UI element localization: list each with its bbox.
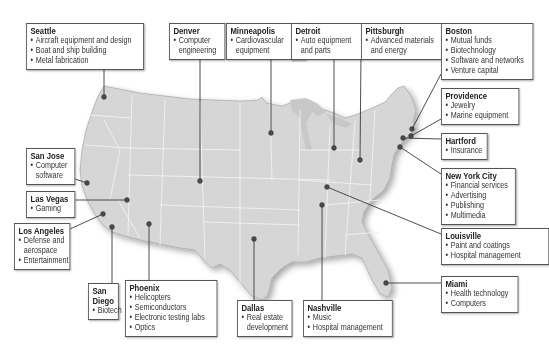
industry-item: Computers	[445, 299, 513, 309]
industry-item: aerospace	[18, 246, 65, 256]
callout-miami: Miami Health technologyComputers	[441, 276, 518, 313]
industry-item: Paint and coatings	[445, 241, 544, 251]
industry-item: Software and networks	[445, 56, 528, 66]
city-dot-hartford	[401, 136, 406, 141]
industry-item: Marine equipment	[445, 111, 514, 121]
industry-item: development	[241, 323, 287, 333]
callout-detroit: Detroit Auto equipmentand parts	[291, 23, 362, 60]
industry-item: Boat and ship building	[30, 46, 139, 56]
industry-list: Mutual fundsBiotechnologySoftware and ne…	[445, 36, 528, 76]
industry-item: Defense and	[18, 236, 65, 246]
industry-list: Computerengineering	[173, 36, 220, 56]
industry-item: Advertising	[445, 191, 511, 201]
city-name: Boston	[445, 26, 528, 36]
callout-providence: Providence JewelryMarine equipment	[441, 88, 519, 125]
industry-item: Semiconductors	[129, 303, 212, 313]
industry-item: Biotechnology	[445, 46, 528, 56]
city-dot-phoenix	[147, 222, 152, 227]
industry-item: Publishing	[445, 201, 511, 211]
industry-item: Helicopters	[129, 293, 212, 303]
city-dot-boston	[410, 127, 415, 132]
industry-item: Advanced materials	[365, 36, 438, 46]
industry-item: Computer	[30, 161, 70, 171]
industry-item: Metal fabrication	[30, 56, 139, 66]
industry-list: Auto equipmentand parts	[295, 36, 357, 56]
industry-item: engineering	[173, 46, 220, 56]
callout-nashville: Nashville MusicHospital management	[303, 300, 393, 337]
city-name: Los Angeles	[18, 226, 65, 236]
industry-item: Venture capital	[445, 66, 528, 76]
callout-pittsburgh: Pittsburgh Advanced materialsand energy	[361, 23, 443, 60]
industry-list: Advanced materialsand energy	[365, 36, 438, 56]
industry-list: Health technologyComputers	[445, 289, 513, 309]
city-dot-nyc	[398, 145, 403, 150]
industry-list: Biotech	[92, 306, 114, 316]
industry-item: Health technology	[445, 289, 513, 299]
callout-boston: Boston Mutual fundsBiotechnologySoftware…	[441, 23, 533, 80]
callout-phoenix: Phoenix HelicoptersSemiconductorsElectro…	[125, 280, 217, 337]
callout-los_angeles: Los Angeles Defense andaerospaceEntertai…	[14, 223, 70, 270]
callout-dallas: Dallas Real estatedevelopment	[237, 300, 292, 337]
city-name: San Jose	[30, 151, 70, 161]
industry-item: Entertainment	[18, 256, 65, 266]
industry-item: Electronic testing labs	[129, 313, 212, 323]
city-name: Hartford	[445, 136, 483, 146]
city-dot-louisville	[325, 185, 330, 190]
city-dot-denver	[198, 179, 203, 184]
industry-list: Financial servicesAdvertisingPublishingM…	[445, 181, 511, 221]
city-name: Phoenix	[129, 283, 212, 293]
callout-san_jose: San Jose Computersoftware	[26, 148, 75, 185]
industry-item: Optics	[129, 323, 212, 333]
leader-line-nyc	[400, 147, 441, 174]
industry-item: Aircraft equipment and design	[30, 36, 139, 46]
city-name: Dallas	[241, 303, 287, 313]
callout-san_diego: San Diego Biotech	[88, 283, 119, 320]
callout-louisville: Louisville Paint and coatingsHospital ma…	[441, 228, 549, 265]
city-name: Seattle	[30, 26, 139, 36]
city-name: Detroit	[295, 26, 357, 36]
city-dot-los_angeles	[101, 212, 106, 217]
industry-list: HelicoptersSemiconductorsElectronic test…	[129, 293, 212, 333]
city-dot-nashville	[320, 203, 325, 208]
industry-item: Biotech	[92, 306, 114, 316]
callout-hartford: Hartford Insurance	[441, 133, 488, 160]
industry-item: Real estate	[241, 313, 287, 323]
us-landmass	[80, 86, 416, 300]
city-name: Providence	[445, 91, 514, 101]
city-dot-san_jose	[85, 181, 90, 186]
leader-line-boston	[412, 74, 441, 129]
industry-item: Multimedia	[445, 211, 511, 221]
industry-item: Hospital management	[307, 323, 388, 333]
industry-list: Real estatedevelopment	[241, 313, 287, 333]
city-name: Miami	[445, 279, 513, 289]
industry-item: Gaming	[30, 204, 70, 214]
city-name: Nashville	[307, 303, 388, 313]
industry-item: Jewelry	[445, 101, 514, 111]
city-name: San Diego	[92, 286, 114, 306]
city-name: Louisville	[445, 231, 544, 241]
industry-list: Computersoftware	[30, 161, 70, 181]
industry-list: Gaming	[30, 204, 70, 214]
industry-list: JewelryMarine equipment	[445, 101, 514, 121]
city-dot-dallas	[252, 237, 257, 242]
industry-item: Mutual funds	[445, 36, 528, 46]
industry-list: MusicHospital management	[307, 313, 388, 333]
city-dot-miami	[384, 281, 389, 286]
industry-item: and parts	[295, 46, 357, 56]
city-dot-seattle	[102, 95, 107, 100]
industry-item: and energy	[365, 46, 438, 56]
industry-item: Financial services	[445, 181, 511, 191]
industry-list: Defense andaerospaceEntertainment	[18, 236, 65, 266]
industry-list: Paint and coatingsHospital management	[445, 241, 544, 261]
industry-item: Hospital management	[445, 251, 544, 261]
industry-item: software	[30, 171, 70, 181]
industry-list: Aircraft equipment and designBoat and sh…	[30, 36, 139, 66]
industry-list: Insurance	[445, 146, 483, 156]
city-name: Denver	[173, 26, 220, 36]
city-dot-detroit	[332, 146, 337, 151]
industry-item: Insurance	[445, 146, 483, 156]
industry-item: Music	[307, 313, 388, 323]
callout-las_vegas: Las Vegas Gaming	[26, 191, 75, 218]
leader-line-hartford	[403, 138, 441, 139]
industry-item: Computer	[173, 36, 220, 46]
